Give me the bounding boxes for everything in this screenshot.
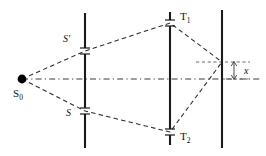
optics-figure: S0 S' S T1 T2 x (0, 0, 266, 156)
source-point-dot (18, 75, 27, 84)
upper-ray-path (22, 23, 222, 79)
label-displacement-x: x (243, 65, 249, 76)
lower-ray-path (22, 62, 222, 132)
label-source: S0 (13, 87, 23, 102)
label-slit-t1: T1 (180, 10, 191, 25)
label-slit-t2: T2 (180, 130, 191, 145)
figure-canvas: S0 S' S T1 T2 x (0, 0, 266, 156)
label-slit-s: S (66, 107, 71, 118)
label-slit-s-prime: S' (63, 33, 71, 44)
